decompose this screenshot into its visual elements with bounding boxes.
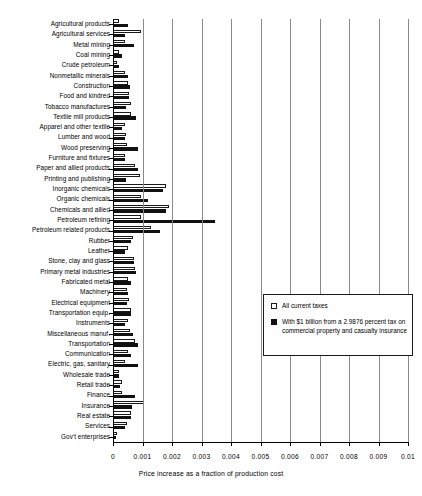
gridline	[379, 19, 380, 442]
category-label: Instruments	[2, 318, 110, 327]
x-axis-title: Price increase as a fraction of producti…	[0, 470, 422, 477]
bar-with-tax	[113, 168, 138, 171]
bar-with-tax	[113, 281, 131, 284]
bar-with-tax	[113, 137, 125, 140]
bar-all-current-taxes	[113, 205, 169, 208]
category-label: Agricultural services	[2, 29, 110, 38]
y-axis-tick-mark	[109, 354, 113, 355]
legend-entry-with-tax: With $1 billion from a 2.9876 percent ta…	[271, 318, 408, 335]
y-axis-tick-mark	[109, 261, 113, 262]
bar-all-current-taxes	[113, 246, 128, 249]
gridline	[202, 19, 203, 442]
y-axis-tick-mark	[109, 303, 113, 304]
category-label: Wholesale trade	[2, 370, 110, 379]
legend-label-all-current-taxes: All current taxes	[282, 302, 408, 311]
bar-with-tax	[113, 240, 131, 243]
bar-all-current-taxes	[113, 81, 128, 84]
category-label: Paper and allied products	[2, 163, 110, 172]
x-axis-tick-mark	[143, 442, 144, 446]
category-label: Transportation equip.	[2, 308, 110, 317]
bar-all-current-taxes	[113, 102, 131, 105]
bar-with-tax	[113, 158, 125, 161]
category-label: Primary metal industries	[2, 267, 110, 276]
y-axis-tick-mark	[109, 210, 113, 211]
category-label: Chemicals and allied	[2, 205, 110, 214]
bar-all-current-taxes	[113, 143, 127, 146]
bar-all-current-taxes	[113, 174, 140, 177]
legend-label-with-tax: With $1 billion from a 2.9876 percent ta…	[282, 318, 408, 335]
category-label: Finance	[2, 390, 110, 399]
y-axis-tick-mark	[109, 34, 113, 35]
bar-with-tax	[113, 405, 132, 408]
y-axis-category-labels: Agricultural productsAgricultural servic…	[0, 19, 110, 442]
y-axis-tick-mark	[109, 24, 113, 25]
bar-with-tax	[113, 426, 125, 429]
y-axis-tick-mark	[109, 427, 113, 428]
category-label: Coal mining	[2, 50, 110, 59]
y-axis-tick-mark	[109, 200, 113, 201]
y-axis-tick-mark	[109, 396, 113, 397]
category-label: Wood preserving	[2, 143, 110, 152]
x-axis-tick-mark	[320, 442, 321, 446]
y-axis-tick-mark	[109, 375, 113, 376]
category-label: Lumber and wood	[2, 132, 110, 141]
bar-all-current-taxes	[113, 308, 131, 311]
bar-all-current-taxes	[113, 391, 122, 394]
bar-all-current-taxes	[113, 71, 125, 74]
y-axis-tick-mark	[109, 138, 113, 139]
x-axis-tick-mark	[113, 442, 114, 446]
category-label: Electric, gas, sanitary	[2, 359, 110, 368]
bar-with-tax	[113, 302, 127, 305]
bar-all-current-taxes	[113, 350, 128, 353]
category-label: Food and kindred	[2, 91, 110, 100]
bar-all-current-taxes	[113, 277, 128, 280]
y-axis-tick-mark	[109, 220, 113, 221]
y-axis-tick-mark	[109, 344, 113, 345]
category-label: Textile mill products	[2, 112, 110, 121]
y-axis-tick-mark	[109, 65, 113, 66]
bar-with-tax	[113, 44, 134, 47]
chart-container: Agricultural productsAgricultural servic…	[0, 0, 422, 496]
x-tick-label: 0.01	[388, 452, 422, 461]
legend-entry-all-current-taxes: All current taxes	[271, 302, 408, 311]
bar-all-current-taxes	[113, 195, 141, 198]
y-axis-tick-mark	[109, 313, 113, 314]
gridline	[408, 19, 409, 442]
y-axis-tick-mark	[109, 416, 113, 417]
bar-with-tax	[113, 230, 160, 233]
bar-all-current-taxes	[113, 236, 133, 239]
gridline	[320, 19, 321, 442]
bar-with-tax	[113, 54, 122, 57]
category-label: Retail trade	[2, 380, 110, 389]
category-label: Tobacco manufactures	[2, 102, 110, 111]
bar-with-tax	[113, 209, 166, 212]
gridline	[143, 19, 144, 442]
category-label: Furniture and fixtures	[2, 153, 110, 162]
bar-all-current-taxes	[113, 164, 135, 167]
y-axis-tick-mark	[109, 189, 113, 190]
bar-with-tax	[113, 343, 138, 346]
bar-with-tax	[113, 323, 125, 326]
x-axis-tick-mark	[261, 442, 262, 446]
bar-with-tax	[113, 189, 163, 192]
x-axis-tick-mark	[379, 442, 380, 446]
gridline	[290, 19, 291, 442]
chart-legend: All current taxes With $1 billion from a…	[263, 294, 413, 356]
bar-all-current-taxes	[113, 92, 129, 95]
y-axis-tick-mark	[109, 148, 113, 149]
y-axis-tick-mark	[109, 385, 113, 386]
bar-with-tax	[113, 364, 138, 367]
category-label: Gov't enterprises	[2, 432, 110, 441]
category-label: Petroleum refining	[2, 215, 110, 224]
bar-with-tax	[113, 354, 131, 357]
x-axis-tick-mark	[231, 442, 232, 446]
bar-with-tax	[113, 385, 120, 388]
y-axis-tick-mark	[109, 169, 113, 170]
category-label: Rubber	[2, 236, 110, 245]
gridline	[349, 19, 350, 442]
legend-swatch-black-icon	[271, 319, 277, 325]
bar-with-tax	[113, 333, 133, 336]
y-axis-tick-mark	[109, 86, 113, 87]
bar-with-tax	[113, 147, 138, 150]
category-label: Communication	[2, 349, 110, 358]
